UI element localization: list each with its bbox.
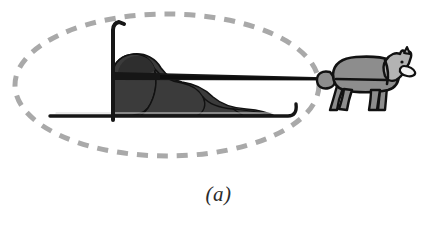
- figure-caption-label: (a): [0, 181, 437, 207]
- figure-container: (a): [0, 0, 437, 228]
- dog-leg-front-near: [369, 90, 380, 110]
- dog-harness-trace: [336, 79, 388, 80]
- dog-eye: [400, 60, 403, 63]
